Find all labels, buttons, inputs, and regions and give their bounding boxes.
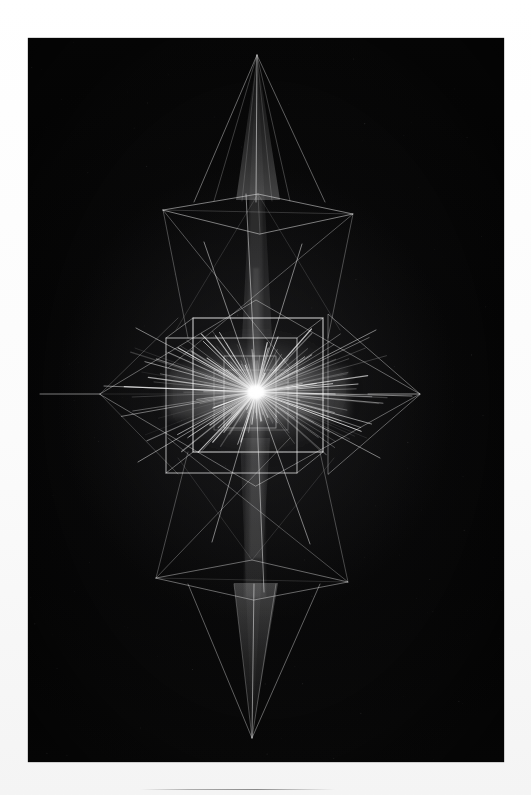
paper-rule-line: [140, 789, 335, 790]
horizontal-smear: [168, 368, 348, 418]
photograph-plate: [28, 38, 504, 762]
light-trail-artwork: [28, 38, 504, 762]
page-canvas: [0, 0, 531, 795]
